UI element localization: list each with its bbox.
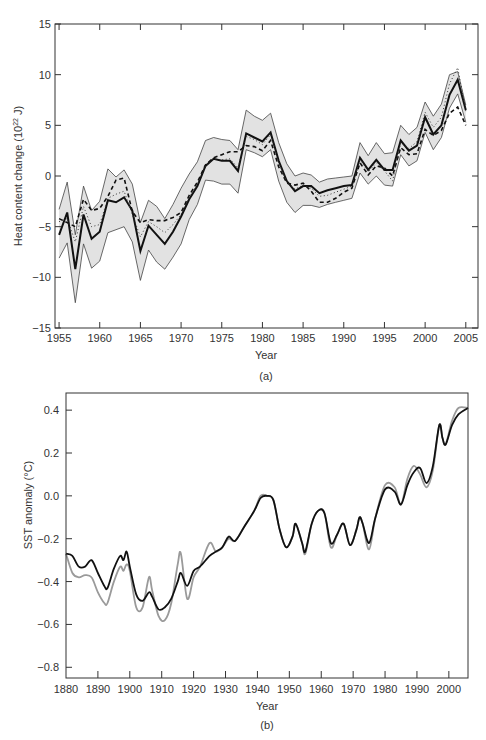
a-y-axis-label: Heat content change (1022 J) <box>12 106 24 247</box>
b-plot-frame <box>66 393 468 678</box>
y-tick-label: 0.4 <box>44 404 59 416</box>
panel-b-sst-anomaly-chart: 1880189019001910192019301940195019601970… <box>22 393 468 731</box>
x-tick-label: 1960 <box>87 332 111 344</box>
x-tick-label: 1960 <box>309 683 333 695</box>
a-caption: (a) <box>259 370 272 382</box>
b-x-axis-label: Year <box>256 700 279 712</box>
a-ylabel-end: J) <box>12 106 24 118</box>
y-tick-label: −0.2 <box>37 533 59 545</box>
y-tick-label: 15 <box>39 18 51 30</box>
y-tick-label: 5 <box>45 119 51 131</box>
x-tick-label: 1980 <box>250 332 274 344</box>
y-tick-label: −0.8 <box>37 661 59 673</box>
x-tick-label: 1990 <box>405 683 429 695</box>
y-tick-label: 0.0 <box>44 490 59 502</box>
a-ylabel-sup: 22 <box>12 118 19 126</box>
a-plot-series <box>59 68 466 303</box>
x-tick-label: 1950 <box>277 683 301 695</box>
x-tick-label: 1970 <box>341 683 365 695</box>
x-tick-label: 1890 <box>86 683 110 695</box>
y-tick-label: 0.2 <box>44 447 59 459</box>
x-tick-label: 1920 <box>181 683 205 695</box>
x-tick-label: 2000 <box>413 332 437 344</box>
uncertainty-band <box>59 72 466 303</box>
x-tick-label: 1880 <box>54 683 78 695</box>
x-tick-label: 2005 <box>454 332 478 344</box>
x-tick-label: 1990 <box>332 332 356 344</box>
x-tick-label: 1965 <box>128 332 152 344</box>
x-tick-label: 1940 <box>245 683 269 695</box>
b-x-axis-ticks: 1880189019001910192019301940195019601970… <box>54 671 461 695</box>
b-caption: (b) <box>260 719 273 731</box>
x-tick-label: 2000 <box>437 683 461 695</box>
y-tick-label: −5 <box>38 221 51 233</box>
x-tick-label: 1985 <box>291 332 315 344</box>
b-y-axis-ticks: −0.8−0.6−0.4−0.20.00.20.4 <box>37 404 72 673</box>
y-tick-label: 10 <box>39 69 51 81</box>
series-gray <box>66 407 468 621</box>
y-tick-label: −10 <box>32 271 51 283</box>
a-x-axis-label: Year <box>255 349 278 361</box>
y-tick-label: −0.6 <box>37 618 59 630</box>
b-y-axis-label: SST anomaly (°C) <box>22 461 34 550</box>
series-black <box>66 408 468 610</box>
figure: 1955196019651970197519801985199019952000… <box>0 0 486 740</box>
x-tick-label: 1930 <box>213 683 237 695</box>
x-tick-label: 1970 <box>169 332 193 344</box>
y-tick-label: 0 <box>45 170 51 182</box>
x-tick-label: 1995 <box>372 332 396 344</box>
x-tick-label: 1910 <box>149 683 173 695</box>
y-tick-label: −15 <box>32 322 51 334</box>
y-tick-label: −0.4 <box>37 576 59 588</box>
b-plot-series <box>66 407 468 621</box>
x-tick-label: 1980 <box>373 683 397 695</box>
panel-a-heat-content-chart: 1955196019651970197519801985199019952000… <box>12 18 478 382</box>
a-y-axis-ticks: −15−10−5051015 <box>32 18 478 334</box>
x-tick-label: 1900 <box>118 683 142 695</box>
a-ylabel-main: Heat content change (10 <box>12 126 24 246</box>
x-tick-label: 1975 <box>210 332 234 344</box>
